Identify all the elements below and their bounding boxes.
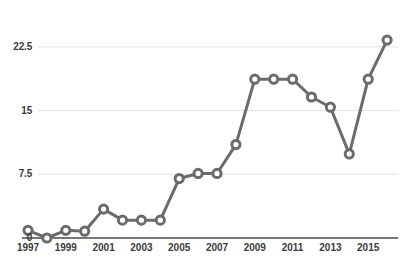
x-tick-label: 2009: [235, 242, 275, 253]
data-point-marker: [137, 216, 145, 224]
data-point-marker: [81, 227, 89, 235]
y-tick-label: 7.5: [0, 168, 32, 179]
data-point-marker: [118, 216, 126, 224]
data-point-marker: [232, 140, 240, 148]
x-tick-label: 2015: [348, 242, 388, 253]
data-point-marker: [100, 205, 108, 213]
x-tick-label: 2013: [310, 242, 350, 253]
data-point-marker: [364, 75, 372, 83]
x-tick-label: 2011: [273, 242, 313, 253]
data-markers: [24, 36, 391, 242]
data-point-marker: [270, 75, 278, 83]
x-tick-label: 1999: [46, 242, 86, 253]
series-line: [28, 40, 387, 238]
data-point-marker: [383, 36, 391, 44]
data-point-marker: [251, 75, 259, 83]
data-point-marker: [156, 216, 164, 224]
x-tick-label: 2001: [84, 242, 124, 253]
data-point-marker: [194, 169, 202, 177]
data-point-marker: [62, 226, 70, 234]
x-tick-label: 2005: [159, 242, 199, 253]
data-point-marker: [43, 234, 51, 242]
x-tick-label: 2003: [121, 242, 161, 253]
y-tick-label: 15: [0, 105, 32, 116]
x-tick-label: 2007: [197, 242, 237, 253]
data-point-marker: [326, 103, 334, 111]
y-tick-label: 22.5: [0, 41, 32, 52]
data-point-marker: [213, 169, 221, 177]
data-line: [28, 40, 387, 238]
data-point-marker: [307, 93, 315, 101]
line-chart: 07.51522.5 19971999200120032005200720092…: [0, 0, 401, 260]
data-point-marker: [345, 150, 353, 158]
data-point-marker: [289, 75, 297, 83]
chart-plot-area: [0, 0, 401, 260]
data-point-marker: [175, 174, 183, 182]
x-tick-label: 1997: [8, 242, 48, 253]
